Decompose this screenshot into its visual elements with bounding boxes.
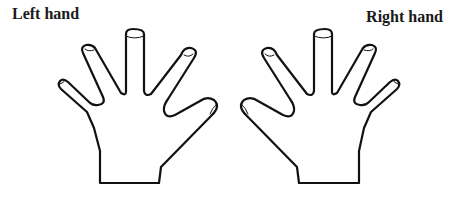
hands-diagram	[0, 0, 453, 200]
left-hand-icon	[59, 29, 217, 183]
right-hand-icon	[241, 29, 399, 183]
